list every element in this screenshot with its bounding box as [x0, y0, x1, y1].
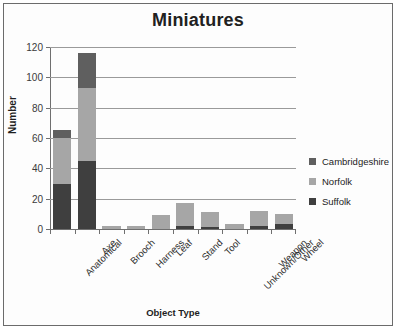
chart-legend: CambridgeshireNorfolkSuffolk [309, 156, 389, 216]
bar-harness[interactable] [127, 226, 145, 229]
gridline [50, 47, 296, 48]
legend-swatch-icon [309, 178, 316, 185]
y-tick-mark [46, 138, 50, 139]
x-tick-mark [148, 230, 149, 234]
y-tick-mark [46, 168, 50, 169]
x-tick-mark [75, 230, 76, 234]
plot-canvas: 020406080100120AnatomicalAxeBroochHarnes… [50, 47, 296, 230]
bar-segment-cambridgeshire[interactable] [53, 130, 71, 138]
y-tick-label: 80 [32, 102, 43, 113]
legend-item-norfolk[interactable]: Norfolk [309, 176, 389, 187]
bar-axe[interactable] [78, 53, 96, 229]
y-tick-mark [46, 199, 50, 200]
bar-segment-suffolk[interactable] [250, 226, 268, 229]
legend-item-cambridgeshire[interactable]: Cambridgeshire [309, 156, 389, 167]
bar-brooch[interactable] [102, 226, 120, 229]
bar-segment-norfolk[interactable] [275, 214, 293, 225]
bar-weapon[interactable] [250, 211, 268, 229]
y-tick-label: 100 [26, 72, 43, 83]
y-tick-mark [46, 108, 50, 109]
x-tick-mark [295, 230, 296, 234]
bar-segment-norfolk[interactable] [102, 226, 120, 229]
x-tick-label: Stand [200, 237, 225, 262]
bar-segment-suffolk[interactable] [53, 184, 71, 230]
legend-label: Suffolk [322, 196, 351, 207]
x-tick-mark [50, 230, 51, 234]
chart-title: Miniatures [4, 10, 392, 31]
x-tick-mark [198, 230, 199, 234]
chart-frame: Miniatures Number 020406080100120Anatomi… [3, 3, 393, 326]
bar-tool[interactable] [201, 212, 219, 229]
bar-segment-cambridgeshire[interactable] [78, 53, 96, 88]
plot-area: 020406080100120AnatomicalAxeBroochHarnes… [50, 47, 296, 230]
bar-stand[interactable] [176, 203, 194, 229]
bar-segment-suffolk[interactable] [78, 161, 96, 229]
bar-anatomical[interactable] [53, 130, 71, 229]
bar-wheel[interactable] [275, 214, 293, 229]
y-tick-mark [46, 47, 50, 48]
y-tick-label: 40 [32, 163, 43, 174]
y-axis-title: Number [7, 96, 18, 134]
x-tick-label: Brooch [127, 237, 156, 266]
bar-segment-norfolk[interactable] [152, 215, 170, 229]
y-tick-label: 0 [37, 224, 43, 235]
bar-segment-norfolk[interactable] [127, 226, 145, 229]
y-tick-mark [46, 77, 50, 78]
bar-segment-suffolk[interactable] [201, 227, 219, 229]
bar-segment-norfolk[interactable] [250, 211, 268, 226]
x-axis-title: Object Type [50, 307, 296, 318]
x-tick-mark [271, 230, 272, 234]
bar-segment-norfolk[interactable] [53, 138, 71, 184]
x-tick-mark [247, 230, 248, 234]
bar-segment-norfolk[interactable] [176, 203, 194, 226]
bar-segment-norfolk[interactable] [201, 212, 219, 227]
bar-leaf[interactable] [152, 215, 170, 229]
legend-swatch-icon [309, 198, 316, 205]
bar-unknown-other[interactable] [225, 224, 243, 229]
bar-segment-suffolk[interactable] [275, 224, 293, 229]
x-tick-mark [124, 230, 125, 234]
legend-swatch-icon [309, 158, 316, 165]
y-tick-label: 60 [32, 133, 43, 144]
bar-segment-norfolk[interactable] [78, 88, 96, 161]
legend-label: Norfolk [322, 176, 352, 187]
legend-item-suffolk[interactable]: Suffolk [309, 196, 389, 207]
legend-label: Cambridgeshire [322, 156, 389, 167]
x-tick-mark [99, 230, 100, 234]
bar-segment-norfolk[interactable] [225, 224, 243, 229]
y-tick-label: 20 [32, 193, 43, 204]
y-tick-label: 120 [26, 42, 43, 53]
x-tick-mark [173, 230, 174, 234]
x-tick-mark [222, 230, 223, 234]
x-tick-label: Tool [222, 237, 242, 257]
bar-segment-suffolk[interactable] [176, 226, 194, 229]
